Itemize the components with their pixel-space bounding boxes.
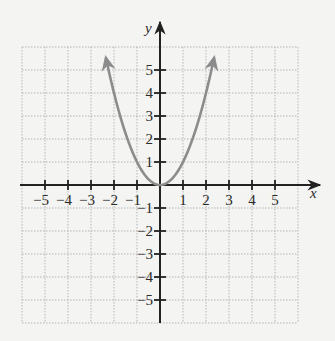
svg-text:1: 1 [146, 154, 154, 170]
y-axis-label: y [143, 20, 152, 36]
svg-text:−4: −4 [137, 269, 153, 285]
svg-text:5: 5 [146, 62, 154, 78]
svg-text:−3: −3 [137, 246, 153, 262]
svg-text:−3: −3 [79, 192, 95, 208]
svg-text:−4: −4 [56, 192, 72, 208]
svg-text:1: 1 [179, 192, 187, 208]
svg-text:−2: −2 [137, 223, 153, 239]
x-axis-label: x [309, 185, 317, 201]
svg-text:−2: −2 [102, 192, 118, 208]
axes [20, 22, 320, 323]
svg-text:2: 2 [202, 192, 210, 208]
svg-text:3: 3 [225, 192, 233, 208]
coordinate-plane: −5−4−3−2−112345−5−4−3−2−112345 x y [0, 0, 335, 341]
svg-text:−1: −1 [137, 200, 153, 216]
svg-text:5: 5 [271, 192, 279, 208]
svg-text:2: 2 [146, 131, 154, 147]
svg-text:4: 4 [146, 85, 154, 101]
svg-text:−5: −5 [33, 192, 49, 208]
svg-text:4: 4 [248, 192, 256, 208]
svg-text:−5: −5 [137, 292, 153, 308]
svg-text:3: 3 [146, 108, 154, 124]
